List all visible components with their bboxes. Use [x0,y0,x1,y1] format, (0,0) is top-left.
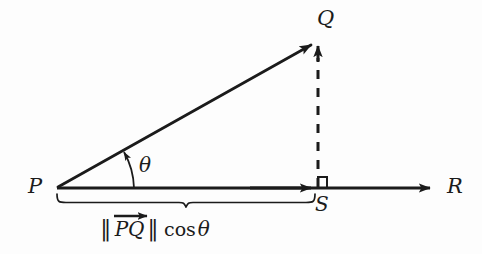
label-angle-theta: θ [139,155,151,175]
norm-bar-open: ‖ [100,216,112,241]
label-point-r: R [447,176,463,197]
vector-pq-line [58,45,311,187]
vector-overbar-arrow-icon [114,212,154,220]
vector-projection-figure: P Q R S θ ‖PQ‖cosθ [0,0,482,254]
underbrace [57,194,315,207]
angle-arc [124,152,134,188]
projection-length-caption: ‖PQ‖cosθ [0,216,310,241]
cosine-function-label: cos [164,218,196,240]
label-point-q: Q [317,8,334,29]
caption-angle-theta: θ [198,217,210,241]
label-point-p: P [28,176,42,197]
vector-pq-text: PQ [115,217,145,241]
vector-pq-symbol: PQ [113,217,147,241]
label-point-s: S [315,194,329,214]
